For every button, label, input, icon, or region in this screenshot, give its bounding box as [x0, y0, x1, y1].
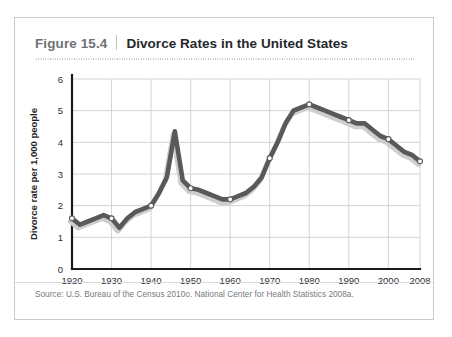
source-note: Source: U.S. Bureau of the Census 2010o.… — [35, 290, 419, 299]
y-axis-tick-label: 6 — [58, 74, 63, 85]
x-axis-tick-label: 1980 — [299, 275, 320, 286]
y-axis-tick-label: 4 — [58, 137, 63, 148]
y-axis-tick-label: 1 — [58, 232, 63, 243]
x-axis-tick-label: 2008 — [409, 275, 430, 286]
x-axis-tick-label: 1920 — [61, 275, 82, 286]
line-chart: 0123456192019301940195019601970198019902… — [15, 18, 435, 321]
chart-plot-area: 0123456192019301940195019601970198019902… — [15, 18, 435, 321]
data-point-marker — [386, 137, 391, 142]
data-point-marker — [267, 156, 272, 161]
y-axis-tick-label: 0 — [58, 264, 63, 275]
y-axis-tick-label: 5 — [58, 105, 63, 116]
x-axis-tick-label: 1940 — [141, 275, 162, 286]
data-point-marker — [149, 203, 154, 208]
series-line — [72, 104, 420, 228]
y-axis-tick-label: 2 — [58, 200, 63, 211]
x-axis-tick-label: 1950 — [180, 275, 201, 286]
data-point-marker — [418, 159, 423, 164]
data-point-marker — [228, 197, 233, 202]
data-point-marker — [346, 118, 351, 123]
source-divider — [15, 282, 433, 283]
data-point-marker — [307, 102, 312, 107]
data-point-marker — [109, 216, 114, 221]
x-axis-tick-label: 1960 — [220, 275, 241, 286]
x-axis-tick-label: 2000 — [378, 275, 399, 286]
data-point-marker — [70, 216, 75, 221]
figure-card: Figure 15.4 Divorce Rates in the United … — [14, 17, 434, 320]
x-axis-tick-label: 1930 — [101, 275, 122, 286]
x-axis-tick-label: 1970 — [259, 275, 280, 286]
x-axis-tick-label: 1990 — [338, 275, 359, 286]
data-point-marker — [188, 186, 193, 191]
y-axis-tick-label: 3 — [58, 169, 63, 180]
y-axis-title: Divorce rate per 1,000 people — [28, 108, 39, 240]
